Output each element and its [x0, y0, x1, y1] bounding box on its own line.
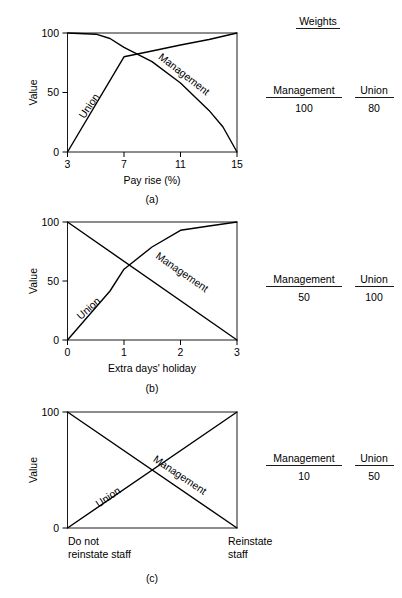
- chart-c-weight-management-head: Management: [273, 452, 334, 464]
- chart-c-xlabel-right-line2: staff: [228, 548, 248, 560]
- chart-b-label-union: Union: [74, 294, 103, 321]
- chart-c-xlabel-right-line1: Reinstate: [228, 535, 273, 547]
- chart-b-weight-management-value: 50: [298, 291, 310, 303]
- chart-c-label-union: Union: [93, 484, 123, 509]
- chart-a-ylabel-100: 100: [41, 27, 59, 39]
- chart-c-xlabel-left-line1: Do not: [68, 535, 99, 547]
- chart-a-ylabel-0: 0: [53, 146, 59, 158]
- chart-c-ylabel-100: 100: [41, 406, 59, 418]
- chart-c: 100 0 Value Union Management Do not rein…: [27, 406, 394, 585]
- chart-b-ylabel-100: 100: [41, 216, 59, 228]
- chart-a-weight-union-head: Union: [360, 84, 388, 96]
- chart-c-caption: (c): [146, 572, 158, 584]
- chart-a-ylabel-50: 50: [47, 86, 59, 98]
- chart-a-weight-management-value: 100: [295, 102, 313, 114]
- chart-b-caption: (b): [146, 382, 159, 394]
- chart-a-xlabel-3: 3: [65, 158, 71, 170]
- chart-a: 100 50 0 3 7 11 15 Value Pay rise (%) Un…: [27, 27, 394, 206]
- weights-heading: Weights: [299, 15, 337, 27]
- chart-c-weight-union-head: Union: [360, 452, 388, 464]
- value-functions-figure: Weights 100 50 0 3 7 11 15 Value Pay ris…: [0, 0, 402, 598]
- chart-c-xlabel-left-line2: reinstate staff: [68, 548, 131, 560]
- chart-b-xlabel-0: 0: [65, 346, 71, 358]
- chart-a-label-management: Management: [157, 50, 213, 97]
- chart-b-ylabel-0: 0: [53, 334, 59, 346]
- chart-b-xlabel-3: 3: [234, 346, 240, 358]
- chart-b-weight-management-head: Management: [273, 273, 334, 285]
- chart-b-weight-union-value: 100: [365, 291, 383, 303]
- chart-b-weight-union-head: Union: [360, 273, 388, 285]
- chart-c-weight-management-value: 10: [298, 470, 310, 482]
- chart-a-xlabel-7: 7: [121, 158, 127, 170]
- chart-a-caption: (a): [146, 193, 159, 205]
- chart-c-ylabel-0: 0: [53, 522, 59, 534]
- chart-c-weight-union-value: 50: [368, 470, 380, 482]
- chart-a-label-union: Union: [76, 91, 101, 121]
- chart-b-x-axis-title: Extra days' holiday: [108, 362, 197, 374]
- figure-canvas: Weights 100 50 0 3 7 11 15 Value Pay ris…: [0, 0, 402, 598]
- chart-a-xlabel-11: 11: [175, 158, 186, 170]
- chart-a-x-axis-title: Pay rise (%): [123, 174, 180, 186]
- chart-b-ylabel-50: 50: [47, 275, 59, 287]
- chart-a-weight-union-value: 80: [368, 102, 380, 114]
- chart-a-y-axis-title: Value: [27, 79, 39, 105]
- chart-a-xlabel-15: 15: [231, 158, 243, 170]
- chart-b-series-management: [68, 222, 238, 340]
- chart-c-y-axis-title: Value: [27, 457, 39, 483]
- chart-a-weight-management-head: Management: [273, 84, 334, 96]
- chart-b-y-axis-title: Value: [27, 268, 39, 294]
- chart-b-xlabel-1: 1: [121, 346, 127, 358]
- chart-b-xlabel-2: 2: [178, 346, 184, 358]
- chart-b: 100 50 0 0 1 2 3 Value Extra days' holid…: [27, 216, 394, 395]
